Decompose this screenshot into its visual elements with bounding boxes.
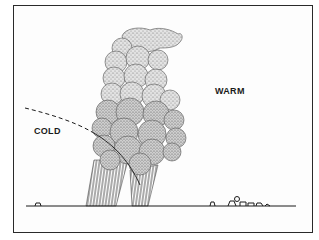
cumulonimbus-cloud (92, 28, 186, 175)
warm-label: WARM (215, 86, 245, 96)
cold-label: COLD (34, 126, 61, 136)
cold-front-diagram (0, 0, 319, 240)
ground-line (26, 197, 296, 207)
